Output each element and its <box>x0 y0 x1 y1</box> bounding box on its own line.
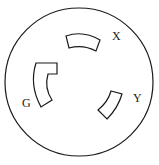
slot-g <box>33 63 57 107</box>
receptacle-diagram: X G Y <box>0 0 159 165</box>
label-g: G <box>22 96 31 110</box>
receptacle-face-outline <box>5 8 153 156</box>
label-y: Y <box>133 91 142 105</box>
receptacle-svg: X G Y <box>0 0 159 165</box>
slot-y <box>98 91 122 119</box>
label-x: X <box>112 29 121 43</box>
slot-x <box>66 34 100 51</box>
